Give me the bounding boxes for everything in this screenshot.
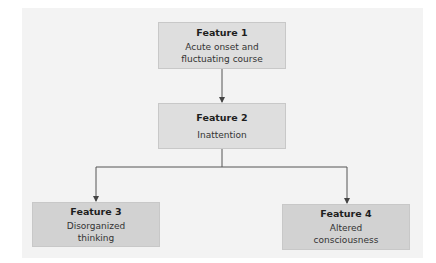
node-description-line: fluctuating course [181,53,262,65]
node-description: Inattention [197,129,246,141]
node-description-line: Inattention [197,129,246,141]
node-title: Feature 2 [196,112,247,124]
node-description: Altered consciousness [314,222,379,246]
node-description-line: Disorganized [67,220,126,232]
node-title: Feature 3 [70,206,121,218]
node-description: Disorganized thinking [67,220,126,244]
node-feature4: Feature 4 Altered consciousness [282,204,410,250]
node-description: Acute onset and fluctuating course [181,41,262,65]
node-description-line: consciousness [314,234,379,246]
node-description-line: Acute onset and [181,41,262,53]
node-title: Feature 4 [320,208,371,220]
node-description-line: Altered [314,222,379,234]
node-feature1: Feature 1 Acute onset and fluctuating co… [158,22,286,69]
node-title: Feature 1 [196,27,247,39]
node-description-line: thinking [67,232,126,244]
node-feature3: Feature 3 Disorganized thinking [32,202,160,247]
node-feature2: Feature 2 Inattention [158,103,286,149]
